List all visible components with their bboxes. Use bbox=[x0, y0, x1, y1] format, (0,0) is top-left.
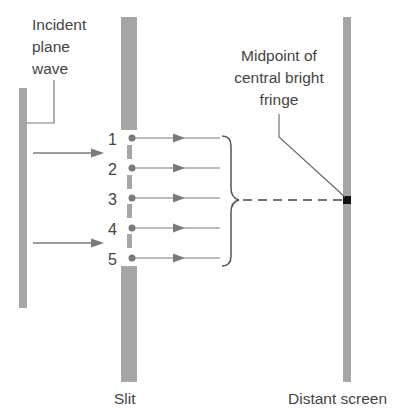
ray-2 bbox=[129, 164, 221, 173]
incident-label-line1: Incident bbox=[32, 16, 87, 33]
screen-label: Distant screen bbox=[288, 390, 387, 407]
ray-3 bbox=[129, 194, 221, 203]
slit-label: Slit bbox=[114, 390, 136, 407]
incident-label-leader bbox=[27, 80, 54, 123]
midpoint-label-line2: central bright bbox=[234, 69, 324, 86]
incident-arrow bbox=[33, 239, 104, 248]
incident-label-line2: plane bbox=[32, 38, 70, 55]
source-label-5: 5 bbox=[108, 251, 117, 268]
slit-barrier-bottom bbox=[121, 266, 137, 382]
midpoint-label-line3: fringe bbox=[260, 91, 299, 108]
midpoint-label-line1: Midpoint of bbox=[241, 47, 318, 64]
source-label-3: 3 bbox=[108, 191, 117, 208]
midpoint-label-leader bbox=[279, 114, 345, 197]
source-label-4: 4 bbox=[108, 221, 117, 238]
ray-4 bbox=[129, 224, 221, 233]
single-slit-diagram: 1 2 3 4 5 Incident plane wave Midpoint o… bbox=[0, 0, 416, 415]
incident-label-line3: wave bbox=[31, 60, 68, 77]
ray-1 bbox=[129, 134, 221, 143]
slit-barrier-top bbox=[121, 17, 137, 130]
central-fringe-marker bbox=[343, 196, 351, 204]
source-label-2: 2 bbox=[108, 161, 117, 178]
ray-5 bbox=[129, 254, 221, 263]
source-label-1: 1 bbox=[108, 131, 117, 148]
incident-arrow bbox=[33, 149, 104, 158]
incident-wavefront-bar bbox=[19, 88, 27, 308]
ray-group-brace bbox=[222, 136, 239, 266]
